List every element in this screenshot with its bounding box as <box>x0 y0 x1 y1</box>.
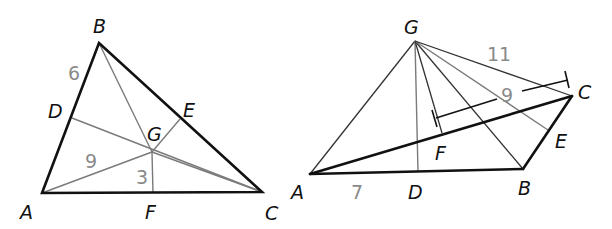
label-B: B <box>93 15 106 37</box>
bracket-line-right <box>522 80 568 91</box>
label-C: C <box>265 202 279 224</box>
measure-BD: 6 <box>68 62 80 84</box>
measure-GF: 3 <box>136 166 148 188</box>
measure-FC: 9 <box>501 84 513 106</box>
label-F: F <box>145 201 157 223</box>
label-D: D <box>48 100 63 122</box>
side-AB <box>310 169 523 174</box>
segment-GF <box>415 41 442 133</box>
segment-GE <box>415 41 548 130</box>
measure-AD: 7 <box>351 181 363 203</box>
label-E: E <box>555 130 567 152</box>
label-F: F <box>435 142 447 164</box>
segment-GC <box>152 152 262 192</box>
measure-GC: 11 <box>487 43 511 65</box>
geometry-figures: B A C D E G F 6 9 3 G A D <box>0 0 612 229</box>
label-E: E <box>183 99 195 121</box>
label-G: G <box>147 123 162 145</box>
right-figure: G A D B C E F 11 9 7 <box>289 16 592 203</box>
label-C: C <box>578 81 592 103</box>
left-figure: B A C D E G F 6 9 3 <box>18 15 279 224</box>
bracket-tick-C <box>565 71 569 88</box>
segment-BG <box>99 43 152 152</box>
segment-GD <box>415 41 418 172</box>
segment-GA <box>310 41 415 174</box>
measure-AG: 9 <box>85 150 97 172</box>
label-B: B <box>518 177 531 199</box>
label-D: D <box>408 181 423 203</box>
segment-GF <box>152 152 153 193</box>
label-G: G <box>404 16 419 38</box>
label-A: A <box>18 201 33 223</box>
label-A: A <box>289 181 304 203</box>
